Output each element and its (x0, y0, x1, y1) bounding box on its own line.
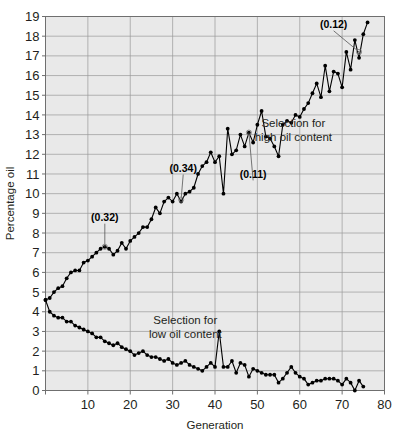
data-point (340, 383, 344, 387)
data-point (141, 349, 145, 353)
y-axis-tick-label: 15 (25, 88, 39, 103)
data-point (107, 341, 111, 345)
data-point (315, 82, 319, 86)
data-point (162, 200, 166, 204)
data-point (154, 206, 158, 210)
data-point (154, 355, 158, 359)
y-axis-tick-label: 14 (25, 108, 39, 123)
data-point (353, 389, 357, 393)
data-point (69, 320, 73, 324)
data-point (340, 85, 344, 89)
data-point (99, 335, 103, 339)
data-point (222, 192, 226, 196)
data-point (124, 347, 128, 351)
data-point (260, 109, 264, 113)
y-axis-tick-label: 12 (25, 147, 39, 162)
data-point (285, 371, 289, 375)
data-point (56, 316, 60, 320)
y-axis-title: Percentage oil (4, 167, 16, 241)
annotation-label: (0.32) (91, 211, 118, 223)
x-axis-title: Generation (187, 419, 244, 431)
y-axis-tick-label: 9 (32, 206, 39, 221)
data-point (158, 211, 162, 215)
data-point (213, 365, 217, 369)
y-axis-tick-label: 5 (32, 285, 39, 300)
data-point (141, 225, 145, 229)
data-point (205, 365, 209, 369)
data-point (120, 345, 124, 349)
data-point (319, 379, 323, 383)
data-point (315, 379, 319, 383)
data-point (243, 363, 247, 367)
data-point (124, 247, 128, 251)
data-point (65, 276, 69, 280)
data-point (302, 377, 306, 381)
data-point (188, 363, 192, 367)
data-point (158, 357, 162, 361)
data-point (311, 91, 315, 95)
data-point (323, 64, 327, 68)
data-point (230, 359, 234, 363)
data-point (277, 381, 281, 385)
data-point (179, 361, 183, 365)
x-axis-tick-label: 30 (165, 397, 179, 412)
data-point (171, 200, 175, 204)
data-point (145, 225, 149, 229)
data-point (188, 190, 192, 194)
data-point (192, 365, 196, 369)
data-point (90, 332, 94, 336)
data-point (86, 330, 90, 334)
annotation-label: (0.12) (320, 18, 347, 30)
data-point (289, 365, 293, 369)
data-point (230, 152, 234, 156)
y-axis-tick-label: 1 (32, 363, 39, 378)
data-point (137, 231, 141, 235)
data-point (133, 353, 137, 357)
y-axis-tick-label: 2 (32, 344, 39, 359)
data-point (264, 373, 268, 377)
data-point (217, 154, 221, 158)
data-point (150, 355, 154, 359)
annotation-label: (0.11) (240, 168, 267, 180)
data-point (311, 381, 315, 385)
data-point (306, 383, 310, 387)
data-point (277, 154, 281, 158)
data-point (150, 217, 154, 221)
data-point (166, 196, 170, 200)
data-point (336, 72, 340, 76)
y-axis-tick-label: 3 (32, 324, 39, 339)
data-point (213, 160, 217, 164)
x-axis-tick-label: 20 (123, 397, 137, 412)
series-caption-low-oil: low oil content (149, 328, 223, 340)
y-axis-tick-label: 19 (25, 9, 39, 24)
data-point (234, 148, 238, 152)
data-point (255, 369, 259, 373)
series-caption-high-oil: high oil content (255, 131, 333, 143)
annotation-label: (0.34) (170, 162, 197, 174)
data-point (328, 89, 332, 93)
data-point (209, 361, 213, 365)
data-point (366, 21, 370, 25)
data-point (349, 68, 353, 72)
y-axis-tick-label: 4 (32, 304, 39, 319)
data-point (56, 286, 60, 290)
x-axis-tick-label: 80 (377, 397, 391, 412)
y-axis-tick-label: 13 (25, 127, 39, 142)
data-point (120, 241, 124, 245)
data-point (133, 235, 137, 239)
data-point (302, 107, 306, 111)
data-point (306, 101, 310, 105)
data-point (294, 371, 298, 375)
data-point (61, 284, 65, 288)
data-point (171, 361, 175, 365)
data-point (226, 127, 230, 131)
x-axis-tick-label: 10 (81, 397, 95, 412)
data-point (205, 160, 209, 164)
data-point (272, 373, 276, 377)
data-point (145, 353, 149, 357)
data-point (78, 326, 82, 330)
data-point (52, 290, 56, 294)
data-point (357, 56, 361, 60)
data-point (226, 365, 230, 369)
data-point (73, 269, 77, 273)
